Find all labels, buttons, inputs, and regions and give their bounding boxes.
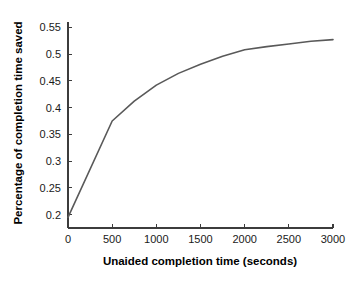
line-chart: 0.20.250.30.350.40.450.50.55 05001000150… <box>0 0 357 284</box>
x-tick-label: 2000 <box>232 233 256 245</box>
x-tick-label: 500 <box>103 233 121 245</box>
y-tick-label: 0.55 <box>40 21 61 33</box>
y-axis-title: Percentage of completion time saved <box>12 21 24 224</box>
y-tick-label: 0.2 <box>46 209 61 221</box>
y-tick-label: 0.3 <box>46 155 61 167</box>
y-tick-label: 0.35 <box>40 128 61 140</box>
chart-figure: 0.20.250.30.350.40.450.50.55 05001000150… <box>0 0 357 284</box>
axis-tick-marks <box>68 27 333 228</box>
x-tick-label: 3000 <box>321 233 345 245</box>
y-tick-label: 0.45 <box>40 75 61 87</box>
y-axis-tick-labels: 0.20.250.30.350.40.450.50.55 <box>40 21 61 220</box>
y-tick-label: 0.25 <box>40 182 61 194</box>
x-tick-label: 1000 <box>144 233 168 245</box>
x-axis-title: Unaided completion time (seconds) <box>103 255 297 267</box>
y-tick-label: 0.5 <box>46 48 61 60</box>
x-tick-label: 2500 <box>277 233 301 245</box>
x-tick-label: 1500 <box>188 233 212 245</box>
y-tick-label: 0.4 <box>46 102 61 114</box>
x-axis-tick-labels: 050010001500200025003000 <box>65 233 345 245</box>
x-tick-label: 0 <box>65 233 71 245</box>
data-series-line <box>68 40 333 218</box>
